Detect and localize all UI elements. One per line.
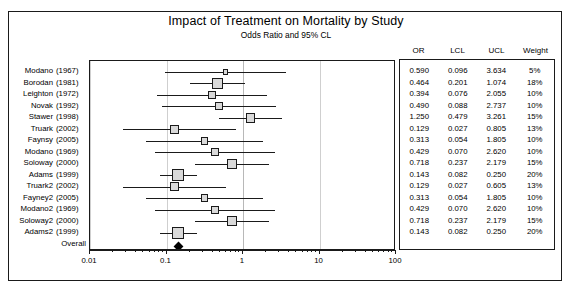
study-name: Novak	[31, 100, 53, 112]
study-year: (2005)	[56, 134, 86, 146]
cell-or: 0.718	[400, 157, 439, 169]
study-name: Truark	[31, 123, 53, 135]
study-name: Modano	[25, 65, 53, 77]
effect-marker	[215, 102, 223, 110]
axis-minor-tick	[112, 250, 113, 252]
table-row: 0.1290.0270.60513%	[400, 180, 554, 192]
cell-ucl: 2.620	[477, 146, 516, 158]
axis-minor-tick	[378, 250, 379, 252]
axis-minor-tick	[162, 250, 163, 252]
study-name: Leighton	[23, 88, 53, 100]
table-row: 0.1290.0270.80513%	[400, 123, 554, 135]
cell-lcl: 0.082	[439, 226, 478, 238]
effect-marker	[201, 194, 209, 202]
column-header: LCL	[438, 44, 477, 60]
cell-lcl: 0.054	[439, 192, 478, 204]
study-label: Borodan(1981)	[12, 77, 86, 89]
axis-minor-tick	[315, 250, 316, 252]
cell-or: 0.490	[400, 100, 439, 112]
cell-ucl: 1.074	[477, 77, 516, 89]
cell-ucl: 3.634	[477, 65, 516, 77]
cell-ucl: 0.605	[477, 180, 516, 192]
study-name: Truark2	[26, 180, 53, 192]
data-table: 0.5900.0963.6345%0.4640.2011.07418%0.394…	[399, 60, 555, 250]
study-name: Stawer	[29, 111, 53, 123]
axis-minor-tick	[202, 250, 203, 252]
axis-minor-tick	[230, 250, 231, 252]
effect-marker	[211, 148, 219, 156]
cell-weight: 10%	[516, 146, 555, 158]
cell-weight: 15%	[516, 111, 555, 123]
axis-minor-tick	[355, 250, 356, 252]
study-name: Modano2	[20, 203, 53, 215]
gridline	[320, 61, 321, 249]
study-label: Modano2(1969)	[12, 203, 86, 215]
gridline	[90, 61, 91, 249]
effect-marker	[170, 125, 179, 134]
study-name: Soloway2	[19, 215, 53, 227]
table-row: 0.3940.0762.05510%	[400, 88, 554, 100]
axis-minor-tick	[278, 250, 279, 252]
table-row: 0.4290.0702.62010%	[400, 203, 554, 215]
effect-marker	[212, 78, 223, 89]
cell-lcl: 0.088	[439, 100, 478, 112]
cell-lcl: 0.027	[439, 123, 478, 135]
study-label: Stawer(1998)	[12, 111, 86, 123]
table-body: 0.5900.0963.6345%0.4640.2011.07418%0.394…	[400, 65, 554, 238]
axis-minor-tick	[135, 250, 136, 252]
cell-ucl: 2.179	[477, 157, 516, 169]
axis-minor-tick	[149, 250, 150, 252]
study-year: (2000)	[56, 157, 86, 169]
effect-marker	[246, 113, 256, 123]
cell-or: 1.250	[400, 111, 439, 123]
cell-or: 0.429	[400, 146, 439, 158]
axis-minor-tick	[235, 250, 236, 252]
effect-marker	[201, 137, 209, 145]
study-name: Faynsy	[28, 134, 53, 146]
axis-minor-tick	[154, 250, 155, 252]
cell-lcl: 0.479	[439, 111, 478, 123]
plot-area: Favors TreatmentFavors Placebo	[89, 60, 395, 250]
cell-lcl: 0.096	[439, 65, 478, 77]
axis-tick	[395, 250, 396, 254]
cell-weight: 10%	[516, 192, 555, 204]
cell-ucl: 0.805	[477, 123, 516, 135]
study-label: Modano(1967)	[12, 65, 86, 77]
cell-or: 0.394	[400, 88, 439, 100]
cell-weight: 10%	[516, 88, 555, 100]
study-label: Soloway2(2000)	[12, 215, 86, 227]
study-year: (1969)	[56, 203, 86, 215]
cell-lcl: 0.237	[439, 157, 478, 169]
axis-minor-tick	[383, 250, 384, 252]
cell-weight: 10%	[516, 100, 555, 112]
title-block: Impact of Treatment on Mortality by Stud…	[0, 14, 572, 41]
column-header: UCL	[477, 44, 516, 60]
table-row: 0.4900.0882.73710%	[400, 100, 554, 112]
cell-or: 0.429	[400, 203, 439, 215]
axis-tick-label: 10	[314, 256, 323, 265]
cell-lcl: 0.082	[439, 169, 478, 181]
study-year: (1999)	[56, 169, 86, 181]
cell-lcl: 0.076	[439, 88, 478, 100]
study-year: (2002)	[56, 180, 86, 192]
axis-minor-tick	[125, 250, 126, 252]
cell-lcl: 0.070	[439, 203, 478, 215]
table-row: 0.1430.0820.25020%	[400, 226, 554, 238]
cell-weight: 20%	[516, 169, 555, 181]
axis-minor-tick	[307, 250, 308, 252]
axis-minor-tick	[391, 250, 392, 252]
cell-or: 0.129	[400, 123, 439, 135]
cell-ucl: 1.805	[477, 134, 516, 146]
study-year: (1969)	[56, 146, 86, 158]
table-row: 0.3130.0541.80510%	[400, 192, 554, 204]
cell-lcl: 0.237	[439, 215, 478, 227]
cell-ucl: 3.261	[477, 111, 516, 123]
study-label: Adams(1999)	[12, 169, 86, 181]
study-name: Borodan	[24, 77, 53, 89]
axis-minor-tick	[372, 250, 373, 252]
study-year: (1967)	[56, 65, 86, 77]
effect-marker	[208, 91, 216, 99]
study-year: (1998)	[56, 111, 86, 123]
cell-lcl: 0.027	[439, 180, 478, 192]
cell-lcl: 0.070	[439, 146, 478, 158]
